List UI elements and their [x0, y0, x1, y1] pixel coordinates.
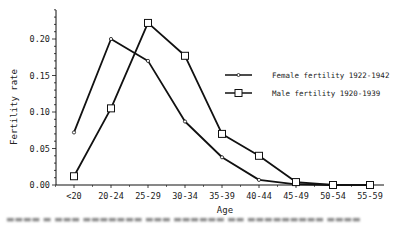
figure-caption-blurred: ▬▬▬▬ ▬ ▬▬▬ ▬▬▬▬▬▬▬ ▬▬▬ ▬▬▬▬▬▬ ▬▬ ▬▬▬▬▬▬▬…: [6, 214, 396, 225]
x-tick-label: 55-59: [357, 191, 383, 201]
y-tick-label: 0.20: [30, 34, 50, 44]
x-tick-label: 40-44: [246, 191, 272, 201]
x-tick-label: 25-29: [135, 191, 161, 201]
square-marker-icon: [71, 173, 78, 180]
legend-diamond-marker-icon: [237, 74, 240, 77]
diamond-marker-icon: [72, 131, 75, 134]
square-marker-icon: [219, 130, 226, 137]
square-marker-icon: [330, 182, 337, 189]
x-tick-label: 35-39: [209, 191, 235, 201]
square-marker-icon: [108, 105, 115, 112]
square-marker-icon: [293, 179, 300, 186]
axes: 0.000.050.100.150.20<2020-2425-2930-3435…: [30, 10, 384, 201]
y-tick-label: 0.15: [30, 71, 50, 81]
x-tick-label: 30-34: [172, 191, 198, 201]
diamond-marker-icon: [220, 156, 223, 159]
y-axis-title: Fertility rate: [9, 69, 19, 145]
diamond-marker-icon: [109, 37, 112, 40]
square-marker-icon: [367, 182, 374, 189]
series-lines: [71, 19, 374, 188]
y-tick-label: 0.10: [30, 107, 50, 117]
x-tick-label: 45-49: [283, 191, 309, 201]
square-marker-icon: [145, 19, 152, 26]
square-marker-icon: [256, 152, 263, 159]
y-tick-label: 0.00: [30, 180, 50, 190]
square-marker-icon: [182, 52, 189, 59]
diamond-marker-icon: [257, 178, 260, 181]
x-tick-label: <20: [66, 191, 81, 201]
fertility-chart: 0.000.050.100.150.20<2020-2425-2930-3435…: [0, 0, 398, 225]
legend-entry-label: Male fertility 1920-1939: [272, 89, 380, 98]
legend-entry-label: Female fertility 1922-1942: [272, 71, 389, 80]
diamond-marker-icon: [146, 59, 149, 62]
x-tick-label: 20-24: [98, 191, 124, 201]
y-tick-label: 0.05: [30, 144, 50, 154]
legend: Female fertility 1922-1942Male fertility…: [225, 71, 389, 98]
x-tick-label: 50-54: [320, 191, 346, 201]
diamond-marker-icon: [183, 120, 186, 123]
legend-square-marker-icon: [235, 90, 242, 97]
male-fertility-line: [74, 23, 370, 185]
